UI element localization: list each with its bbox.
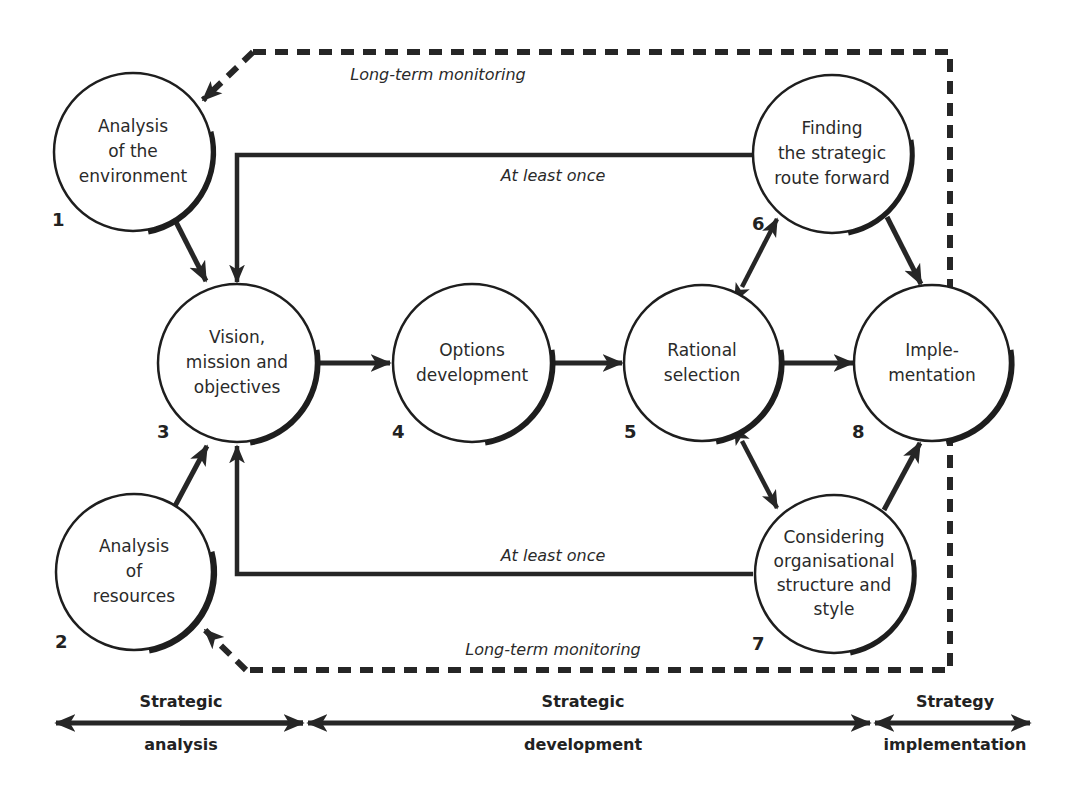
node-7-line-1: Considering <box>783 527 884 547</box>
node-6-number: 6 <box>752 213 765 234</box>
node-7-number: 7 <box>752 633 765 654</box>
node-6-line-3: route forward <box>774 168 890 188</box>
node-1: Analysis of the environment 1 <box>52 73 213 231</box>
arrow-1-to-3 <box>176 222 206 281</box>
phase-2-top: Strategic <box>542 692 625 711</box>
node-5-line-2: selection <box>664 365 740 385</box>
node-2-line-1: Analysis <box>99 536 169 556</box>
monitoring-arrow-to-node-1 <box>203 52 253 100</box>
phase-1-top: Strategic <box>140 692 223 711</box>
phase-3-bottom: implementation <box>884 735 1027 754</box>
label-monitoring-bottom: Long-term monitoring <box>465 640 640 659</box>
node-5-line-1: Rational <box>667 340 737 360</box>
node-8-line-2: mentation <box>888 365 975 385</box>
node-4-number: 4 <box>392 421 405 442</box>
node-3-line-3: objectives <box>194 377 281 397</box>
node-1-line-1: Analysis <box>98 116 168 136</box>
arrow-5-7-bidirectional <box>742 441 777 508</box>
arrow-6-to-8 <box>887 217 921 284</box>
label-monitoring-top: Long-term monitoring <box>350 65 525 84</box>
node-4-line-2: development <box>416 365 528 385</box>
label-feedback-bottom: At least once <box>500 546 606 565</box>
node-8-number: 8 <box>852 421 865 442</box>
feedback-arrow-bottom <box>237 446 753 574</box>
node-3: Vision, mission and objectives 3 <box>157 284 317 442</box>
node-3-line-2: mission and <box>186 352 288 372</box>
node-6-line-2: the strategic <box>778 143 886 163</box>
node-1-line-3: environment <box>79 166 188 186</box>
node-3-line-1: Vision, <box>209 327 265 347</box>
node-4: Options development 4 <box>392 284 552 442</box>
node-1-line-2: of the <box>108 141 158 161</box>
monitoring-arrow-to-node-2 <box>205 630 246 670</box>
node-6: Finding the strategic route forward 6 <box>752 75 911 234</box>
node-7-line-4: style <box>814 599 855 619</box>
node-7-line-3: structure and <box>777 575 892 595</box>
node-3-number: 3 <box>157 421 170 442</box>
node-7: Considering organisational structure and… <box>752 495 913 654</box>
node-2: Analysis of resources 2 <box>55 494 214 652</box>
phase-3-top: Strategy <box>916 692 995 711</box>
node-2-line-2: of <box>126 561 143 581</box>
node-4-line-1: Options <box>439 340 505 360</box>
phase-timeline: Strategic analysis Strategic development… <box>56 692 1030 754</box>
node-8: Imple- mentation 8 <box>852 285 1011 442</box>
node-7-line-2: organisational <box>774 551 895 571</box>
node-2-number: 2 <box>55 631 68 652</box>
node-8-line-1: Imple- <box>905 340 959 360</box>
phase-2-bottom: development <box>524 735 642 754</box>
arrow-7-to-8 <box>884 443 920 510</box>
label-feedback-top: At least once <box>500 166 606 185</box>
phase-1-bottom: analysis <box>144 735 217 754</box>
node-5-number: 5 <box>624 421 637 442</box>
node-1-number: 1 <box>52 209 65 230</box>
arrow-2-to-3 <box>175 446 207 506</box>
node-6-line-1: Finding <box>801 118 862 138</box>
strategy-process-diagram: Analysis of the environment 1 Analysis o… <box>0 0 1088 790</box>
node-2-line-3: resources <box>93 586 176 606</box>
feedback-arrow-top <box>237 155 752 282</box>
node-5: Rational selection 5 <box>624 285 781 442</box>
